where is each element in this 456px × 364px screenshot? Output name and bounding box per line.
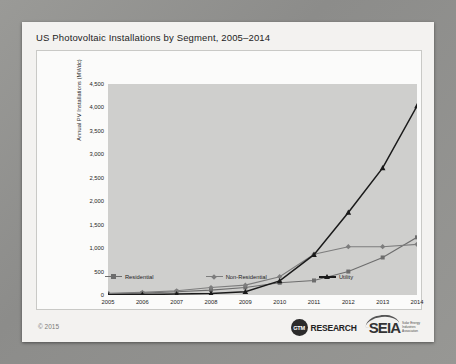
y-axis-tick: 4,000 bbox=[70, 104, 104, 110]
plot-area bbox=[108, 84, 417, 295]
data-point-marker bbox=[415, 235, 417, 239]
gtm-badge-icon: GTM bbox=[291, 319, 308, 336]
gtm-research-label: RESEARCH bbox=[311, 323, 357, 333]
y-axis-tick: 3,500 bbox=[70, 128, 104, 134]
series-line bbox=[108, 237, 417, 294]
footer-logos: GTM RESEARCH SEIA Solar Energy Industrie… bbox=[291, 319, 420, 336]
legend-marker-square-icon bbox=[105, 273, 122, 280]
y-axis-tick: 1,000 bbox=[70, 245, 104, 251]
y-axis-title: Annual PV Installations (MWdc) bbox=[76, 40, 82, 160]
seia-tagline: Solar Energy Industries Association bbox=[402, 322, 420, 335]
series-utility bbox=[108, 103, 417, 295]
legend-marker-triangle-icon bbox=[319, 273, 336, 280]
legend-item-residential[interactable]: Residential bbox=[105, 273, 154, 280]
data-point-marker bbox=[346, 244, 351, 249]
copyright-text: © 2015 bbox=[38, 323, 59, 330]
y-axis-tick: 2,000 bbox=[70, 198, 104, 204]
x-axis-tick: 2014 bbox=[397, 299, 437, 305]
y-axis-tick: 4,500 bbox=[70, 81, 104, 87]
chart-legend: ResidentialNon-ResidentialUtility bbox=[37, 273, 421, 280]
data-point-marker bbox=[414, 103, 417, 108]
legend-marker-diamond-icon bbox=[206, 273, 223, 280]
data-point-marker bbox=[414, 242, 417, 247]
slide: US Photovoltaic Installations by Segment… bbox=[22, 22, 434, 342]
y-axis-tick: 3,000 bbox=[70, 151, 104, 157]
legend-label: Residential bbox=[125, 274, 154, 280]
gtm-research-logo: GTM RESEARCH bbox=[291, 319, 357, 336]
chart-container: Annual PV Installations (MWdc) 05001,000… bbox=[36, 50, 422, 310]
legend-item-utility[interactable]: Utility bbox=[319, 273, 353, 280]
page-title: US Photovoltaic Installations by Segment… bbox=[36, 32, 270, 43]
data-point-marker bbox=[380, 244, 385, 249]
legend-item-non-residential[interactable]: Non-Residential bbox=[206, 273, 267, 280]
y-axis-tick: 2,500 bbox=[70, 175, 104, 181]
seia-logo: SEIA Solar Energy Industries Association bbox=[369, 320, 420, 335]
legend-label: Non-Residential bbox=[226, 274, 267, 280]
legend-label: Utility bbox=[339, 274, 353, 280]
y-axis-tick: 0 bbox=[70, 292, 104, 298]
chart-svg bbox=[108, 84, 417, 295]
series-line bbox=[108, 106, 417, 295]
slide-photo-frame: US Photovoltaic Installations by Segment… bbox=[0, 0, 456, 364]
data-point-marker bbox=[381, 255, 385, 259]
y-axis-tick: 1,500 bbox=[70, 222, 104, 228]
